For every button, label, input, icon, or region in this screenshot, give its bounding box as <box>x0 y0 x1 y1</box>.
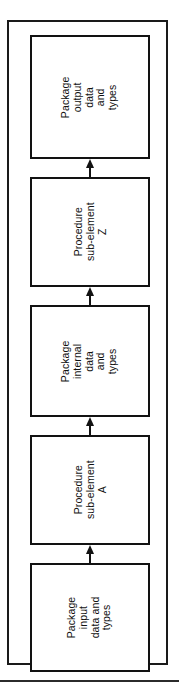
figure-outer-frame: Package output data and types Procedure … <box>7 20 168 665</box>
arrow-head-up-icon <box>86 417 94 426</box>
arrow-proc-a-to-internal <box>30 417 150 435</box>
flow-box-label: Procedure sub-element Z <box>72 203 107 262</box>
flow-box-label: Package input data and types <box>67 597 114 639</box>
flow-box-label: Package output data and types <box>61 76 120 118</box>
flow-box-package-internal: Package internal data and types <box>30 305 150 417</box>
arrow-input-to-proc-a <box>30 545 150 563</box>
arrow-internal-to-proc-z <box>30 287 150 305</box>
arrow-head-up-icon <box>86 545 94 554</box>
flow-box-package-input: Package input data and types <box>30 563 150 672</box>
page-bottom-rule <box>0 680 179 682</box>
arrow-head-up-icon <box>86 159 94 168</box>
flow-box-label: Procedure sub-element A <box>72 461 107 520</box>
flow-box-procedure-sub-element-a: Procedure sub-element A <box>30 435 150 545</box>
arrow-proc-z-to-output <box>30 159 150 177</box>
flow-box-package-output: Package output data and types <box>30 35 150 159</box>
flow-box-procedure-sub-element-z: Procedure sub-element Z <box>30 177 150 287</box>
flow-diagram: Package output data and types Procedure … <box>30 35 150 654</box>
arrow-head-up-icon <box>86 287 94 296</box>
flow-box-label: Package internal data and types <box>61 340 120 382</box>
